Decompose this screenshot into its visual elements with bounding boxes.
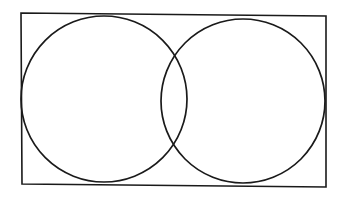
universal-set-rectangle — [21, 13, 326, 187]
venn-diagram — [0, 0, 347, 198]
left-set-circle — [21, 16, 187, 182]
right-set-circle — [161, 19, 325, 183]
